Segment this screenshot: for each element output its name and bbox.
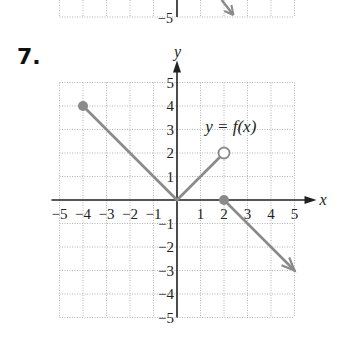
- x-tick-label: 5: [291, 206, 299, 222]
- y-tick-label: −4: [158, 286, 174, 302]
- y-tick-label: 3: [167, 122, 175, 138]
- y-axis-label: y: [172, 43, 182, 61]
- series: [78, 101, 295, 271]
- closed-point: [219, 195, 229, 205]
- previous-graph-fragment: −5: [60, 0, 295, 26]
- y-tick-label: −2: [158, 239, 174, 255]
- open-point: [219, 148, 230, 159]
- x-tick-label: 4: [267, 206, 275, 222]
- function-label: y = f(x): [203, 117, 256, 136]
- x-axis-label: x: [319, 191, 327, 208]
- x-tick-label: −3: [99, 206, 115, 222]
- x-tick-label: −2: [122, 206, 138, 222]
- ray-3-line: [224, 200, 295, 271]
- y-tick-label: 4: [167, 98, 175, 114]
- function-graph: −5 xy −5−4−3−2−112345−5−4−3−2−112345 y =…: [0, 0, 343, 343]
- x-tick-label: 2: [220, 206, 228, 222]
- y-tick-label: −3: [158, 263, 174, 279]
- y-axis-arrow: [173, 61, 181, 73]
- x-tick-label: 1: [197, 206, 205, 222]
- y-tick-label: −5: [158, 310, 174, 326]
- x-axis-arrow: [305, 196, 317, 204]
- y-tick-label: 2: [167, 145, 175, 161]
- x-tick-label: −4: [75, 206, 91, 222]
- x-tick-label: −5: [52, 206, 68, 222]
- y-tick-label: −1: [158, 216, 174, 232]
- closed-point: [78, 101, 88, 111]
- prev-tick-label: −5: [158, 11, 173, 26]
- axes: xy: [52, 43, 327, 318]
- y-tick-label: 5: [167, 75, 175, 91]
- y-tick-label: 1: [167, 169, 175, 185]
